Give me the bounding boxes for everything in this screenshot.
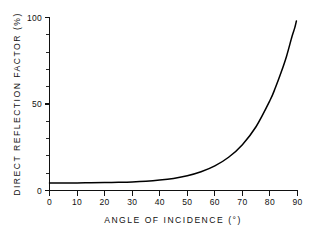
x-tick-label-40: 40: [155, 197, 165, 207]
y-axis-title: DIRECT REFLECTION FACTOR (%): [12, 12, 22, 196]
x-tick-label-10: 10: [72, 197, 82, 207]
x-tick-label-90: 90: [292, 197, 302, 207]
x-tick-label-20: 20: [100, 197, 110, 207]
y-tick-label-50: 50: [32, 99, 42, 109]
x-tick-label-30: 30: [127, 197, 137, 207]
y-tick-label-100: 100: [27, 13, 42, 23]
x-axis-title: ANGLE OF INCIDENCE (°): [104, 215, 242, 225]
x-tick-label-80: 80: [265, 197, 275, 207]
y-tick-label-0: 0: [37, 186, 42, 196]
x-tick-label-0: 0: [47, 197, 52, 207]
x-tick-label-70: 70: [237, 197, 247, 207]
x-tick-label-50: 50: [182, 197, 192, 207]
chart-figure: 0 50 100 0 10 20 30 40 50 60 70: [0, 0, 320, 235]
x-tick-label-60: 60: [210, 197, 220, 207]
reflection-factor-chart: 0 50 100 0 10 20 30 40 50 60 70: [0, 0, 320, 235]
